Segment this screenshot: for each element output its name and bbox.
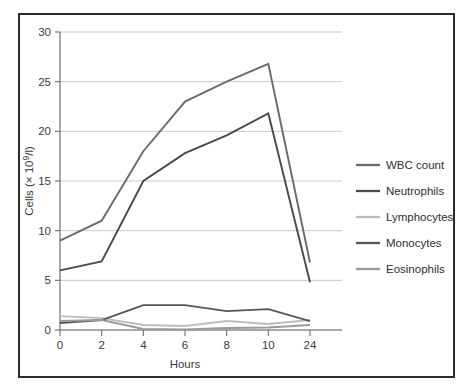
legend-label-monocytes: Monocytes xyxy=(386,237,442,249)
x-axis-title: Hours xyxy=(170,358,201,370)
x-tick-label-6: 6 xyxy=(182,339,188,351)
series-line-wbc-count xyxy=(60,64,310,263)
y-tick-label-0: 0 xyxy=(45,324,51,336)
y-tick-label-30: 30 xyxy=(38,26,51,38)
y-tick-label-25: 25 xyxy=(38,76,51,88)
y-tick-labels: 051015202530 xyxy=(38,26,51,336)
legend-label-neutrophils: Neutrophils xyxy=(386,185,444,197)
x-tick-label-0: 0 xyxy=(57,339,63,351)
data-series-lines xyxy=(60,64,310,330)
y-tick-label-10: 10 xyxy=(38,225,51,237)
y-tick-label-20: 20 xyxy=(38,125,51,137)
legend-label-eosinophils: Eosinophils xyxy=(386,263,445,275)
series-line-eosinophils xyxy=(60,320,310,329)
line-chart: 051015202530 024681024 Cells (× 109/l) H… xyxy=(20,15,453,376)
x-tick-label-10: 10 xyxy=(262,339,275,351)
y-tick-label-5: 5 xyxy=(45,274,51,286)
gridlines xyxy=(60,32,342,330)
figure-border-frame: 051015202530 024681024 Cells (× 109/l) H… xyxy=(18,13,455,378)
legend-label-lymphocytes: Lymphocytes xyxy=(386,211,453,223)
x-tick-label-8: 8 xyxy=(223,339,229,351)
series-line-neutrophils xyxy=(60,113,310,282)
y-tick-label-15: 15 xyxy=(38,175,51,187)
legend: WBC countNeutrophilsLymphocytesMonocytes… xyxy=(356,159,453,275)
legend-label-wbc-count: WBC count xyxy=(386,159,445,171)
x-tick-labels: 024681024 xyxy=(57,339,317,351)
x-tick-label-4: 4 xyxy=(140,339,147,351)
x-tick-label-2: 2 xyxy=(98,339,104,351)
y-axis-title: Cells (× 109/l) xyxy=(21,146,35,216)
y-tick-marks xyxy=(55,32,60,330)
x-tick-marks xyxy=(60,330,310,336)
x-tick-label-24: 24 xyxy=(304,339,317,351)
figure-root: 051015202530 024681024 Cells (× 109/l) H… xyxy=(0,0,466,390)
